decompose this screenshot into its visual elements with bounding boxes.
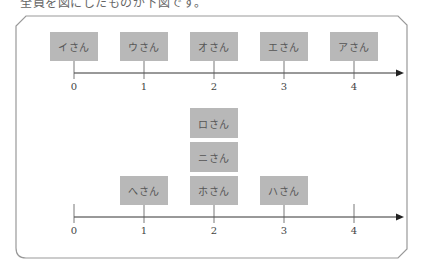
person-box-ni: ニさん [190, 142, 238, 172]
top-tick-3: 3 [281, 81, 287, 92]
top-tick-1: 1 [141, 81, 147, 92]
bottom-tick-1: 1 [141, 225, 147, 236]
person-box-ho: ホさん [190, 176, 238, 205]
person-box-a: アさん [330, 32, 378, 61]
top-tick-2: 2 [211, 81, 217, 92]
person-box-u: ウさん [120, 32, 168, 61]
top-tick-0: 0 [71, 81, 77, 92]
person-box-he: へさん [120, 176, 168, 205]
bottom-tick-3: 3 [281, 225, 287, 236]
person-box-i: イさん [50, 32, 98, 61]
person-box-ha: ハさん [260, 176, 308, 205]
bottom-tick-4: 4 [351, 225, 357, 236]
person-box-o: オさん [190, 32, 238, 61]
bottom-tick-0: 0 [71, 225, 77, 236]
person-box-ro: ロさん [190, 108, 238, 138]
person-box-e: エさん [260, 32, 308, 61]
top-tick-4: 4 [351, 81, 357, 92]
bottom-number-line [74, 204, 404, 223]
bottom-tick-2: 2 [211, 225, 217, 236]
top-number-line [74, 61, 404, 79]
